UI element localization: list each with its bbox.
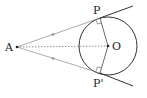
tangent-diagram: A O P P' — [0, 0, 147, 98]
segment-ap-prime — [17, 47, 100, 73]
radius-op-prime — [100, 46, 108, 73]
tangent-extension-p — [100, 6, 133, 18]
label-p: P — [93, 4, 101, 17]
segment-ao-dashed — [17, 46, 108, 47]
point-a — [16, 46, 19, 49]
segment-ap — [17, 18, 100, 47]
radius-op — [100, 18, 108, 46]
label-a: A — [4, 41, 14, 54]
tangent-extension-p-prime — [100, 73, 133, 86]
point-o — [107, 45, 110, 48]
label-p-prime: P' — [93, 77, 103, 90]
label-o: O — [112, 40, 121, 53]
